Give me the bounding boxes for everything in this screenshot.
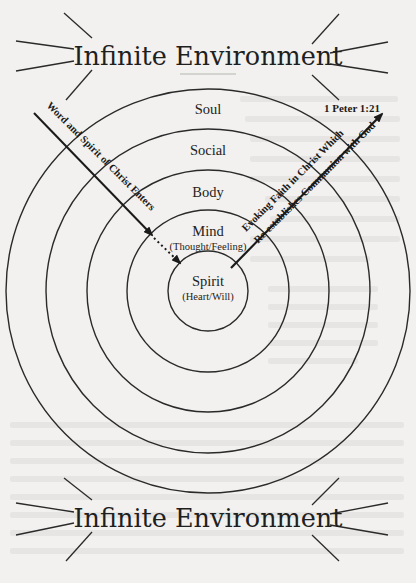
outbound-arrow: Evoking Faith in Christ Which Re-establi… <box>231 114 382 268</box>
diagram-canvas: Infinite Environment Soul Social Body Mi… <box>0 0 416 583</box>
bottom-title: Infinite Environment <box>73 503 343 533</box>
outbound-arrow-label-line2: Re-establishes Communion with God <box>252 120 378 246</box>
ring-label-spirit: Spirit <box>192 273 224 289</box>
ring-label-mind: Mind <box>192 223 224 239</box>
inbound-arrow-solid <box>34 113 152 235</box>
ring-label-social: Social <box>190 142 226 158</box>
ring-label-body: Body <box>192 184 224 200</box>
top-title: Infinite Environment <box>73 41 343 71</box>
inbound-arrow-label: Word and Spirit of Christ Enters <box>45 100 158 213</box>
concentric-diagram: Infinite Environment Soul Social Body Mi… <box>0 0 416 583</box>
ring-sublabel-mind: (Thought/Feeling) <box>170 241 247 253</box>
scripture-reference: 1 Peter 1:21 <box>324 102 380 114</box>
ring-label-soul: Soul <box>195 101 222 117</box>
ring-sublabel-spirit: (Heart/Will) <box>182 291 234 303</box>
